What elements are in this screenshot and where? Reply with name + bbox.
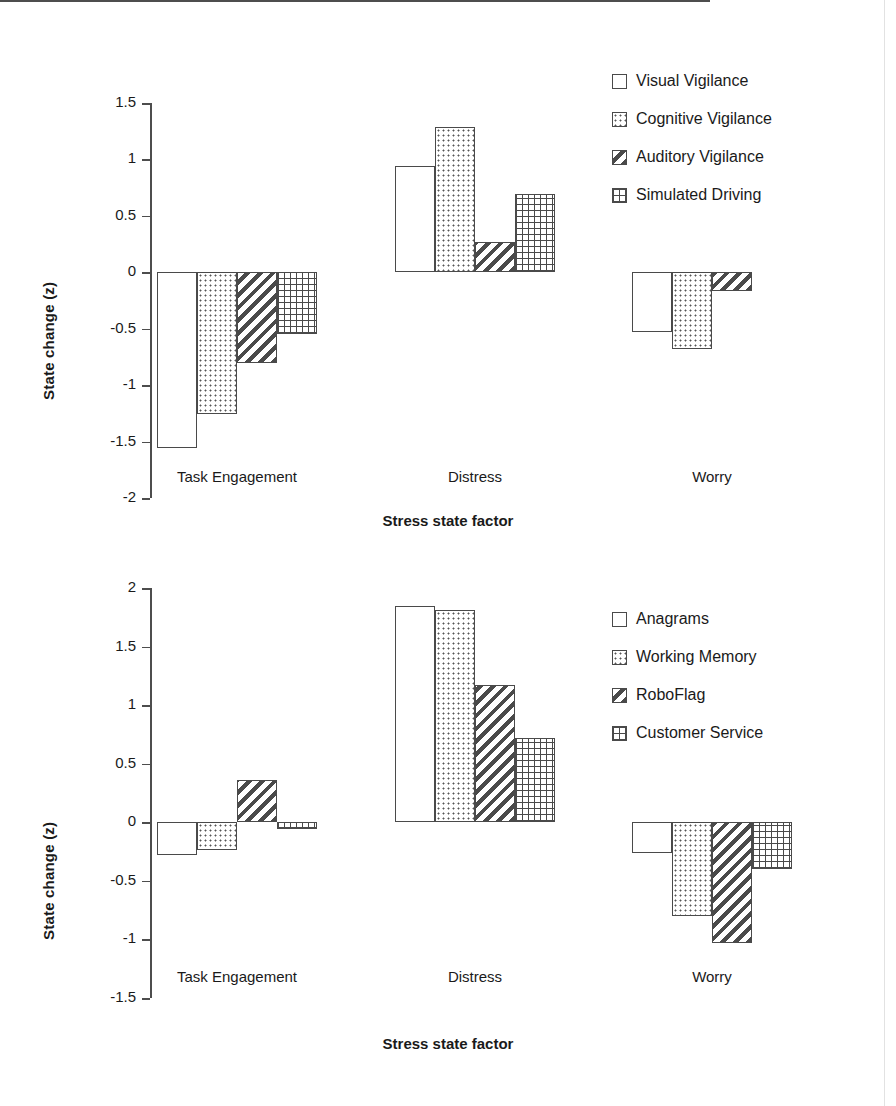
legend-label: Anagrams (636, 610, 709, 628)
legend-label: Customer Service (636, 724, 763, 742)
legend-swatch-icon (612, 650, 627, 665)
x-axis-category-label: Worry (602, 968, 822, 985)
bar-worry-roboflag (712, 822, 752, 943)
y-axis-tick (142, 588, 150, 590)
y-axis-tick (142, 764, 150, 766)
bar-worry-working-memory (672, 822, 712, 916)
y-axis-tick-label: 2 (50, 578, 136, 595)
legend-item[interactable]: RoboFlag (612, 676, 763, 714)
y-axis-tick (142, 647, 150, 649)
x-axis-title-bottom: Stress state factor (0, 1035, 896, 1052)
legend-item[interactable]: Anagrams (612, 600, 763, 638)
y-axis-tick-label: -1.5 (50, 988, 136, 1005)
bar-distress-roboflag (475, 685, 515, 822)
y-axis-tick-label: 0 (50, 812, 136, 829)
bar-task-engagement-working-memory (197, 822, 237, 850)
legend-label: RoboFlag (636, 686, 705, 704)
y-axis-tick-label: 1 (50, 695, 136, 712)
bar-worry-customer-service (752, 822, 792, 869)
y-axis-tick (142, 822, 150, 824)
y-axis-tick (142, 939, 150, 941)
bar-task-engagement-anagrams (157, 822, 197, 855)
plot-area-bottom: 21.510.50-0.5-1-1.5Task EngagementDistre… (0, 0, 896, 1106)
figure-page: State change (z) 1.510.50-0.5-1-1.5-2Tas… (0, 0, 896, 1106)
x-axis-category-label: Task Engagement (127, 968, 347, 985)
bar-task-engagement-roboflag (237, 780, 277, 822)
y-axis-tick-label: 1.5 (50, 637, 136, 654)
legend-swatch-icon (612, 688, 627, 703)
legend-swatch-icon (612, 612, 627, 627)
legend-swatch-icon (612, 726, 627, 741)
y-axis-tick-label: -0.5 (50, 871, 136, 888)
bar-distress-anagrams (395, 606, 435, 823)
y-axis-tick-label: 0.5 (50, 754, 136, 771)
zero-baseline (0, 0, 710, 2)
x-axis-category-label: Distress (365, 968, 585, 985)
y-axis-tick (142, 881, 150, 883)
legend-bottom: AnagramsWorking MemoryRoboFlagCustomer S… (612, 600, 763, 752)
y-axis-tick (142, 998, 150, 1000)
bar-distress-working-memory (435, 610, 475, 822)
legend-item[interactable]: Customer Service (612, 714, 763, 752)
y-axis-line (150, 588, 152, 998)
legend-label: Working Memory (636, 648, 757, 666)
bar-worry-anagrams (632, 822, 672, 852)
bar-task-engagement-customer-service (277, 822, 317, 829)
y-axis-tick-label: -1 (50, 929, 136, 946)
y-axis-tick (142, 705, 150, 707)
bar-distress-customer-service (515, 738, 555, 822)
chart-panel-bottom: State change (z) 21.510.50-0.5-1-1.5Task… (0, 560, 896, 1106)
legend-item[interactable]: Working Memory (612, 638, 763, 676)
